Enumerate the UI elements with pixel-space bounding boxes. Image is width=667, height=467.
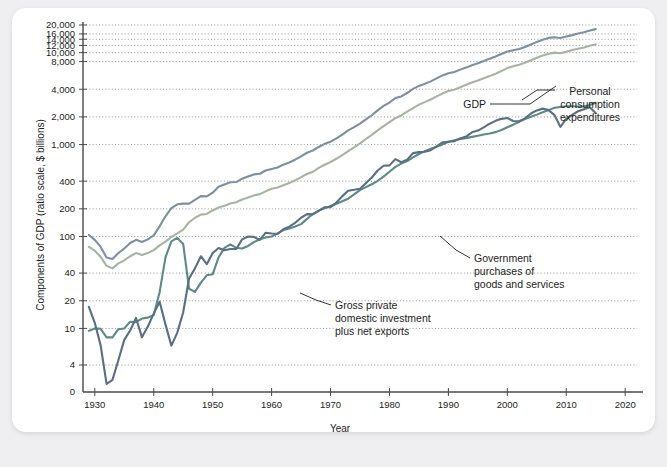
gdp-components-line-chart: 41020401002004001,0002,0004,0008,00010,0… bbox=[0, 0, 667, 467]
y-tick-label: 400 bbox=[59, 176, 75, 187]
y-tick-label-zero: 0 bbox=[70, 386, 75, 397]
annotation-label-pce: Personalconsumptionexpenditures bbox=[560, 85, 620, 123]
y-tick-label: 40 bbox=[64, 267, 75, 278]
annotation-leader-gov bbox=[440, 236, 470, 258]
annotation-label-gov: Governmentpurchases ofgoods and services bbox=[474, 252, 564, 290]
x-tick-label: 2000 bbox=[497, 399, 518, 410]
chart-figure: 41020401002004001,0002,0004,0008,00010,0… bbox=[0, 0, 667, 467]
y-axis-ticks: 41020401002004001,0002,0004,0008,00010,0… bbox=[46, 19, 87, 397]
series-line bbox=[89, 44, 596, 268]
x-tick-label: 1950 bbox=[202, 399, 223, 410]
annotation-gov: Governmentpurchases ofgoods and services bbox=[440, 236, 564, 290]
annotation-label-inv: Gross privatedomestic investmentplus net… bbox=[335, 299, 431, 337]
x-tick-label: 1980 bbox=[379, 399, 400, 410]
x-tick-label: 1940 bbox=[143, 399, 164, 410]
annotation-pce: Personalconsumptionexpenditures bbox=[522, 85, 620, 123]
x-tick-label: 1990 bbox=[438, 399, 459, 410]
y-tick-label: 1,000 bbox=[51, 139, 75, 150]
y-tick-label: 100 bbox=[59, 231, 75, 242]
y-tick-label: 10 bbox=[64, 323, 75, 334]
annotation-inv: Gross privatedomestic investmentplus net… bbox=[300, 293, 431, 337]
y-tick-label: 4 bbox=[70, 359, 75, 370]
series-line bbox=[89, 107, 596, 384]
y-tick-label: 20 bbox=[64, 295, 75, 306]
annotation-leader-gdp bbox=[490, 86, 556, 104]
y-tick-label: 2,000 bbox=[51, 111, 75, 122]
y-tick-label: 4,000 bbox=[51, 84, 75, 95]
x-tick-label: 2020 bbox=[615, 399, 636, 410]
y-tick-label: 20,000 bbox=[46, 19, 75, 30]
annotation-label-gdp: GDP bbox=[463, 98, 486, 110]
series-annotations: GDPPersonalconsumptionexpendituresGovern… bbox=[300, 85, 620, 337]
y-tick-label: 200 bbox=[59, 203, 75, 214]
x-tick-label: 1960 bbox=[261, 399, 282, 410]
x-axis-title: Year bbox=[330, 423, 351, 434]
x-tick-label: 1970 bbox=[320, 399, 341, 410]
y-axis-title: Components of GDP (ratio scale, $ billio… bbox=[35, 119, 46, 311]
annotation-leader-inv bbox=[300, 293, 331, 305]
x-tick-label: 1930 bbox=[84, 399, 105, 410]
x-tick-label: 2010 bbox=[556, 399, 577, 410]
